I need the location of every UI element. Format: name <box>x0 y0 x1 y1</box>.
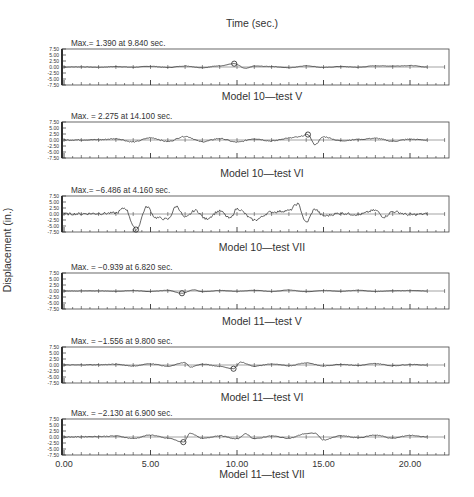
x-tick-label: 15.00 <box>312 459 335 469</box>
displacement-line <box>64 203 427 231</box>
panel: Max. = 2.275 at 14.100 sec.7.505.002.500… <box>48 112 449 179</box>
y-tick-label: -7.50 <box>48 155 60 161</box>
max-annotation: Max. = −1.556 at 9.800 sec. <box>71 337 173 346</box>
panel-title: Model 11—test VI <box>221 391 304 403</box>
panel: Max. = −1.556 at 9.800 sec.7.505.002.500… <box>48 337 449 403</box>
displacement-line <box>64 134 427 145</box>
y-tick-label: -7.50 <box>48 452 60 458</box>
panel-title: Model 10—test VII <box>219 241 305 253</box>
x-tick-label: 5.00 <box>142 459 160 469</box>
y-tick-label: -7.50 <box>48 380 60 386</box>
panel: Max.= −6.486 at 4.160 sec.7.505.002.500.… <box>48 186 449 253</box>
max-annotation: Max.= 1.390 at 9.840 sec. <box>71 39 165 48</box>
max-annotation: Max. = 2.275 at 14.100 sec. <box>71 112 172 121</box>
x-tick-label: 0.00 <box>55 459 73 469</box>
panel-title: Model 11—test VII <box>219 468 305 480</box>
x-tick-label: 20.00 <box>399 459 422 469</box>
max-annotation: Max.= −6.486 at 4.160 sec. <box>71 186 170 195</box>
panel: Max. = −0.939 at 6.820 sec.7.505.002.500… <box>48 263 449 327</box>
y-tick-label: -7.50 <box>48 306 60 312</box>
panel: Max.= 1.390 at 9.840 sec.7.505.002.500.0… <box>48 39 449 102</box>
displacement-line <box>64 433 427 442</box>
x-axis-title: Time (sec.) <box>226 17 278 29</box>
panel-title: Model 10—test V <box>222 90 303 102</box>
max-marker <box>133 227 138 232</box>
max-annotation: Max. = −2.130 at 6.900 sec. <box>71 409 173 418</box>
figure: Time (sec.) Displacement (in.) Max.= 1.3… <box>0 0 474 497</box>
panel: Max. = −2.130 at 6.900 sec.7.505.002.500… <box>48 409 449 480</box>
displacement-line <box>64 290 427 294</box>
displacement-line <box>64 64 427 69</box>
y-tick-label: -7.50 <box>48 82 60 88</box>
panel-title: Model 10—test VI <box>220 167 303 179</box>
y-tick-label: -7.50 <box>48 229 60 235</box>
panel-title: Model 11—test V <box>222 315 302 327</box>
max-annotation: Max. = −0.939 at 6.820 sec. <box>71 263 173 272</box>
displacement-line <box>64 362 427 369</box>
y-axis-title: Displacement (in.) <box>1 208 13 293</box>
